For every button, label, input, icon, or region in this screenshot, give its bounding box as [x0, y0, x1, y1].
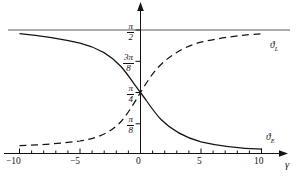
xtick-label-0: 0: [136, 157, 141, 167]
theta-E-subscript: E: [271, 137, 275, 144]
ytick-3pi8-denominator: 8: [123, 64, 134, 73]
ytick-3pi8-numerator: 3π: [123, 53, 134, 62]
plot-figure: π 2 3π 8 π 4 π 8 −10 −5 0 5 10 γ ϑL: [0, 0, 300, 176]
ytick-label-pi-over-8: π 8: [114, 115, 134, 136]
ytick-pi4-numerator: π: [127, 84, 134, 93]
y-axis-ticks: [136, 30, 141, 124]
ytick-pi2-denominator: 2: [127, 33, 134, 42]
x-axis-arrow-icon: [279, 150, 288, 157]
xtick-label-5: 5: [197, 157, 202, 167]
xtick-label-neg-10: −10: [6, 157, 21, 167]
x-axis-label-gamma: γ: [285, 160, 289, 171]
curve-label-theta-E: ϑE: [266, 133, 275, 144]
y-axis-arrow-icon: [137, 2, 144, 11]
ytick-label-pi-over-2: π 2: [114, 22, 134, 43]
ytick-pi8-numerator: π: [127, 115, 134, 124]
ytick-label-pi-over-4: π 4: [114, 84, 134, 105]
curve-label-theta-L: ϑL: [270, 41, 278, 52]
theta-L-subscript: L: [275, 45, 279, 52]
ytick-label-3pi-over-8: 3π 8: [110, 53, 134, 74]
xtick-label-10: 10: [254, 157, 264, 167]
ytick-pi8-denominator: 8: [127, 126, 134, 135]
ytick-pi4-denominator: 4: [127, 95, 134, 104]
ytick-pi2-numerator: π: [127, 22, 134, 31]
xtick-label-neg-5: −5: [70, 157, 80, 167]
plot-canvas: [0, 0, 300, 176]
